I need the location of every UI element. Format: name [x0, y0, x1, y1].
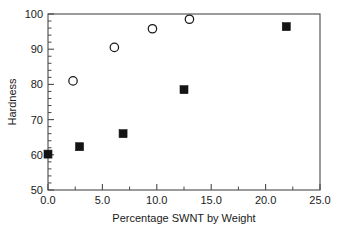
- x-tick-label: 25.0: [309, 194, 330, 206]
- data-point-filled-square: [76, 143, 84, 151]
- y-tick-label: 90: [31, 43, 43, 55]
- data-point-filled-square: [282, 23, 290, 31]
- x-axis-title: Percentage SWNT by Weight: [112, 212, 255, 224]
- data-point-filled-square: [44, 150, 52, 158]
- plot-frame: [48, 14, 320, 190]
- data-point-filled-square: [180, 86, 188, 94]
- y-tick-label: 100: [25, 8, 43, 20]
- y-axis-title: Hardness: [6, 78, 18, 126]
- y-tick-label: 60: [31, 149, 43, 161]
- x-tick-label: 5.0: [95, 194, 110, 206]
- scatter-chart-figure: 50607080901000.05.010.015.020.025.0Perce…: [0, 0, 339, 230]
- x-tick-label: 10.0: [146, 194, 167, 206]
- data-point-open-circle: [148, 25, 156, 33]
- data-point-filled-square: [119, 130, 127, 138]
- data-point-open-circle: [185, 15, 193, 23]
- x-tick-label: 20.0: [255, 194, 276, 206]
- x-tick-label: 15.0: [200, 194, 221, 206]
- x-tick-label: 0.0: [40, 194, 55, 206]
- y-tick-label: 70: [31, 114, 43, 126]
- chart-canvas: 50607080901000.05.010.015.020.025.0Perce…: [0, 0, 339, 230]
- data-point-open-circle: [69, 77, 77, 85]
- y-tick-label: 80: [31, 78, 43, 90]
- data-point-open-circle: [110, 43, 118, 51]
